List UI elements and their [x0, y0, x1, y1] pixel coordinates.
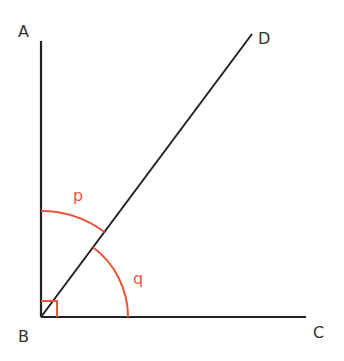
label-point-d: D — [258, 29, 270, 48]
label-point-c: C — [313, 323, 324, 342]
angle-p-arc — [41, 211, 104, 232]
label-point-b: B — [18, 327, 29, 346]
geometry-diagram: A B C D p q — [0, 0, 344, 361]
angle-q-arc — [93, 247, 128, 317]
segment-bd — [41, 34, 252, 317]
label-point-a: A — [18, 22, 29, 41]
label-angle-p: p — [73, 186, 83, 205]
label-angle-q: q — [133, 269, 143, 288]
